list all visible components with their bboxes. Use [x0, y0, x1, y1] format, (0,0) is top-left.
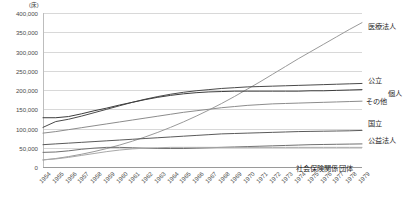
series-line: [43, 130, 362, 144]
series-label: 公立: [368, 75, 382, 85]
series-label: その他: [366, 96, 387, 106]
series-line: [43, 101, 362, 133]
series-line: [43, 23, 362, 160]
chart-plot-area: [0, 0, 414, 205]
series-line: [43, 144, 362, 152]
series-label: 個人: [388, 88, 402, 98]
series-label: 国立: [368, 118, 382, 128]
series-label: 公益法人: [368, 135, 396, 145]
series-line: [43, 83, 362, 127]
series-line: [43, 147, 362, 159]
bed-count-line-chart: (床) 400,000350,000300,000250,000200,0001…: [0, 0, 414, 205]
series-label: 社会保険関係団体: [296, 163, 353, 173]
series-label: 医療法人: [368, 21, 396, 31]
